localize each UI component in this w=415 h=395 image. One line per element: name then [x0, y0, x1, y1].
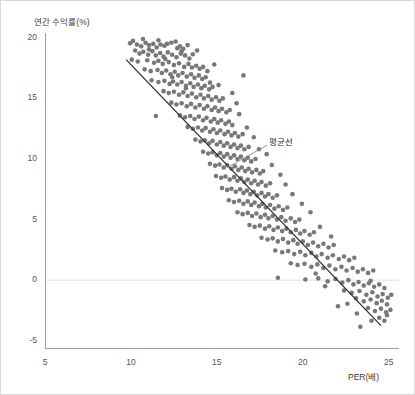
scatter-point: [194, 95, 199, 100]
y-tick-label: 15: [13, 92, 37, 102]
scatter-point: [307, 232, 312, 237]
scatter-point: [265, 237, 270, 242]
scatter-point: [189, 102, 194, 107]
scatter-point: [202, 96, 207, 101]
x-axis-title: PER(배): [348, 370, 379, 382]
scatter-point: [184, 74, 189, 79]
scatter-point: [233, 131, 238, 136]
scatter-point: [344, 268, 349, 273]
scatter-point: [208, 162, 213, 167]
scatter-point: [206, 94, 211, 99]
scatter-point: [264, 152, 269, 157]
scatter-point: [179, 49, 184, 54]
x-tick-label: 5: [33, 357, 57, 367]
axis-lines: [45, 33, 399, 349]
scatter-point: [227, 119, 232, 124]
scatter-point: [313, 271, 318, 276]
scatter-point: [176, 73, 181, 78]
scatter-point: [172, 89, 177, 94]
scatter-point: [323, 284, 328, 289]
scatter-point: [205, 104, 210, 109]
scatter-point: [205, 69, 210, 74]
scatter-point: [321, 242, 326, 247]
scatter-point: [225, 152, 230, 157]
scatter-point: [239, 154, 244, 159]
scatter-point: [264, 183, 269, 188]
scatter-point: [245, 199, 250, 204]
scatter-point: [187, 56, 192, 61]
scatter-point: [273, 248, 278, 253]
scatter-point: [233, 189, 238, 194]
scatter-point: [216, 83, 221, 88]
scatter-point: [279, 215, 284, 220]
scatter-point: [380, 292, 385, 297]
scatter-point: [190, 52, 195, 57]
scatter-point: [149, 78, 154, 83]
scatter-point: [309, 265, 314, 270]
scatter-point: [166, 50, 171, 55]
scatter-point: [133, 48, 138, 53]
scatter-point: [270, 163, 275, 168]
scatter-point: [245, 188, 250, 193]
scatter-point: [219, 118, 224, 123]
scatter-point: [382, 286, 387, 291]
scatter-point: [275, 193, 280, 198]
scatter-point: [375, 294, 380, 299]
scatter-point: [298, 249, 303, 254]
scatter-point: [368, 297, 373, 302]
scatter-point: [141, 49, 146, 54]
scatter-point: [190, 91, 195, 96]
scatter-point: [302, 262, 307, 267]
scatter-point: [319, 252, 324, 257]
scatter-point: [339, 265, 344, 270]
scatter-point: [194, 63, 199, 68]
scatter-point: [331, 253, 336, 258]
scatter-point: [225, 141, 230, 146]
scatter-point: [236, 134, 241, 139]
scatter-point: [165, 42, 170, 47]
scatter-point: [329, 234, 334, 239]
scatter-point: [185, 94, 190, 99]
scatter-point: [291, 238, 296, 243]
scatter-point: [225, 188, 230, 193]
scatter-point: [151, 42, 156, 47]
scatter-point: [239, 165, 244, 170]
scatter-point: [148, 69, 153, 74]
scatter-point: [211, 127, 216, 132]
scatter-point: [373, 309, 378, 314]
scatter-point: [242, 147, 247, 152]
scatter-point: [171, 79, 176, 84]
scatter-point: [156, 59, 161, 64]
scatter-point: [333, 267, 338, 272]
scatter-point: [180, 71, 185, 76]
scatter-point: [192, 117, 197, 122]
scatter-point: [208, 80, 213, 85]
scatter-point: [252, 179, 257, 184]
scatter-point: [170, 53, 175, 58]
x-tick-label: 20: [291, 357, 315, 367]
scatter-point: [276, 239, 281, 244]
y-tick-label: 10: [13, 153, 37, 163]
scatter-point: [246, 166, 251, 171]
scatter-point: [355, 269, 360, 274]
scatter-point: [240, 132, 245, 137]
scatter-point: [232, 153, 237, 158]
scatter-point: [306, 243, 311, 248]
y-tick-label: 5: [13, 214, 37, 224]
scatter-point: [268, 181, 273, 186]
mean-line-annotation-label: 평균선: [269, 135, 293, 147]
scatter-point: [302, 229, 307, 234]
trend-line-layer: [126, 60, 381, 326]
scatter-point: [331, 243, 336, 248]
scatter-point: [276, 204, 281, 209]
scatter-point: [220, 186, 225, 191]
scatter-point: [201, 65, 206, 70]
scatter-point: [371, 268, 376, 273]
scatter-point: [233, 164, 238, 169]
scatter-point: [172, 63, 177, 68]
scatter-point: [389, 292, 394, 297]
scatter-point: [152, 60, 157, 65]
scatter-point: [281, 208, 286, 213]
scatter-point: [283, 218, 288, 223]
scatter-point: [312, 230, 317, 235]
